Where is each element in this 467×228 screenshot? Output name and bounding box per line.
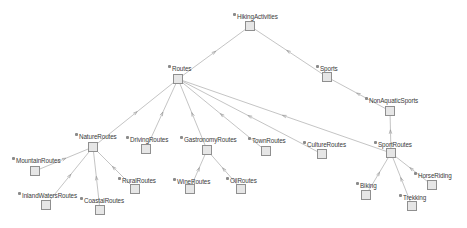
node-label: NonAquaticSports xyxy=(365,97,418,104)
class-marker-icon xyxy=(365,97,368,100)
node-box[interactable] xyxy=(88,142,98,152)
node-label: OilRoutes xyxy=(226,177,257,184)
node-label: Routes xyxy=(168,65,191,72)
node-box[interactable] xyxy=(407,201,417,211)
node-label-text: Routes xyxy=(172,65,191,72)
node-box[interactable] xyxy=(185,184,195,194)
class-marker-icon xyxy=(118,177,121,180)
node-label-text: NatureRoutes xyxy=(79,133,117,140)
node-label: NatureRoutes xyxy=(75,133,117,140)
node-label: HikingActivities xyxy=(233,13,278,20)
diagram-canvas: HikingActivitiesRoutesSportsNonAquaticSp… xyxy=(0,0,467,228)
class-marker-icon xyxy=(303,141,306,144)
class-marker-icon xyxy=(356,182,359,185)
class-marker-icon xyxy=(173,178,176,181)
class-marker-icon xyxy=(168,65,171,68)
node-label: Sports xyxy=(316,65,338,72)
class-marker-icon xyxy=(248,137,251,140)
node-label-text: Trekking xyxy=(403,194,426,201)
node-label: MountainRoutes xyxy=(12,157,60,164)
node-box[interactable] xyxy=(317,149,327,159)
node-label: InlandWatersRoutes xyxy=(18,192,77,199)
class-marker-icon xyxy=(180,136,183,139)
node-box[interactable] xyxy=(385,106,395,116)
node-box[interactable] xyxy=(141,144,151,154)
node-label-text: CoastalRoutes xyxy=(84,197,124,204)
node-label: SportRoutes xyxy=(374,141,412,148)
class-marker-icon xyxy=(18,192,21,195)
node-label-text: SportRoutes xyxy=(378,141,412,148)
class-marker-icon xyxy=(80,197,83,200)
node-label: Biking xyxy=(356,182,377,189)
node-label-text: MountainRoutes xyxy=(16,157,60,164)
node-label: RuralRoutes xyxy=(118,177,156,184)
class-marker-icon xyxy=(399,194,402,197)
node-label-text: HorseRiding xyxy=(418,172,452,179)
node-label: TownRoutes xyxy=(248,137,286,144)
class-marker-icon xyxy=(226,177,229,180)
node-label-text: CultureRoutes xyxy=(307,141,346,148)
node-label-text: DrivingRoutes xyxy=(130,136,168,143)
class-marker-icon xyxy=(414,172,417,175)
node-label: CoastalRoutes xyxy=(80,197,124,204)
node-label-text: GastronomyRoutes xyxy=(184,136,237,143)
node-box[interactable] xyxy=(173,74,183,84)
node-box[interactable] xyxy=(202,145,212,155)
class-marker-icon xyxy=(233,13,236,16)
node-label-text: OilRoutes xyxy=(230,177,257,184)
node-label-text: InlandWatersRoutes xyxy=(22,192,77,199)
node-box[interactable] xyxy=(95,205,105,215)
node-label-text: HikingActivities xyxy=(237,13,278,20)
node-label: GastronomyRoutes xyxy=(180,136,237,143)
node-box[interactable] xyxy=(261,146,271,156)
class-marker-icon xyxy=(126,136,129,139)
class-marker-icon xyxy=(12,157,15,160)
node-box[interactable] xyxy=(30,166,40,176)
class-marker-icon xyxy=(316,65,319,68)
node-label-text: NonAquaticSports xyxy=(369,97,418,104)
node-label: HorseRiding xyxy=(414,172,452,179)
node-label-text: Sports xyxy=(320,65,338,72)
edge-Sports-NonAquaticSports xyxy=(327,77,390,111)
node-label: CultureRoutes xyxy=(303,141,346,148)
node-label-text: RuralRoutes xyxy=(122,177,156,184)
node-box[interactable] xyxy=(245,21,255,31)
node-box[interactable] xyxy=(130,184,140,194)
node-box[interactable] xyxy=(41,200,51,210)
node-label-text: TownRoutes xyxy=(252,137,286,144)
node-box[interactable] xyxy=(427,180,437,190)
node-box[interactable] xyxy=(322,72,332,82)
node-label-text: Biking xyxy=(360,182,377,189)
node-label: DrivingRoutes xyxy=(126,136,168,143)
node-box[interactable] xyxy=(361,190,371,200)
class-marker-icon xyxy=(75,133,78,136)
class-marker-icon xyxy=(374,141,377,144)
node-label: Trekking xyxy=(399,194,426,201)
node-box[interactable] xyxy=(386,148,396,158)
node-box[interactable] xyxy=(236,184,246,194)
